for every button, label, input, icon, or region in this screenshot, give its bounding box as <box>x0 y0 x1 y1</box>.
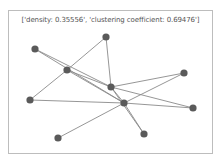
network-graph <box>0 0 221 166</box>
graph-edge <box>58 103 124 138</box>
graph-edge <box>106 37 111 87</box>
graph-edge <box>30 70 67 100</box>
graph-node <box>63 66 70 73</box>
graph-edge <box>111 73 184 87</box>
graph-edge <box>30 100 124 103</box>
graph-nodes <box>26 33 196 141</box>
graph-node <box>102 33 109 40</box>
graph-edge <box>35 49 111 87</box>
graph-node <box>189 104 196 111</box>
graph-edge <box>124 103 144 134</box>
graph-node <box>120 99 127 106</box>
graph-node <box>140 130 147 137</box>
graph-edge <box>124 73 184 103</box>
graph-edge <box>67 37 106 70</box>
graph-edge <box>67 70 111 87</box>
graph-node <box>31 45 38 52</box>
graph-node <box>54 134 61 141</box>
graph-node <box>26 96 33 103</box>
graph-node <box>107 83 114 90</box>
graph-node <box>180 69 187 76</box>
